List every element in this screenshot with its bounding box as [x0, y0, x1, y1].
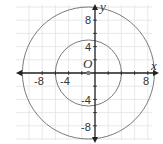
origin-label: O [83, 57, 92, 70]
x-arrow-left-icon [16, 70, 22, 76]
y-tick-4: 4 [85, 42, 91, 53]
y-axis-label: y [100, 0, 106, 13]
x-axis-label: x [151, 59, 157, 72]
y-tick-neg8: -8 [81, 122, 91, 133]
y-tick-8: 8 [85, 15, 91, 26]
x-tick-8: 8 [143, 76, 149, 87]
y-tick-neg4: -4 [81, 95, 91, 106]
x-tick-neg8: -8 [34, 76, 44, 87]
center-point [86, 71, 90, 75]
x-tick-neg4: -4 [60, 76, 70, 87]
y-arrow-down-icon [92, 137, 98, 143]
